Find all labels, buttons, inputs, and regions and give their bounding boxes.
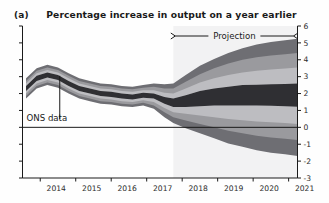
x-tick-label: 2016 [118, 184, 137, 193]
x-tick-label: 2019 [224, 184, 243, 193]
y-tick-label: 1 [304, 106, 309, 115]
x-tick-label: 2018 [189, 184, 208, 193]
x-tick-label: 2020 [259, 184, 278, 193]
y-tick-label: -1 [304, 140, 312, 149]
ons-data-label: ONS data [27, 113, 68, 123]
projection-label: Projection [213, 31, 256, 41]
fan-chart-plot: 6543210-1-2-3201420152016201720182019202… [0, 0, 329, 203]
x-tick-label: 2017 [153, 184, 172, 193]
y-tick-label: 6 [304, 22, 309, 31]
fan-chart-figure: (a) Percentage increase in output on a y… [0, 0, 329, 203]
y-tick-label: 2 [304, 89, 309, 98]
y-tick-label: -2 [304, 157, 312, 166]
y-tick-label: 4 [304, 55, 309, 64]
y-tick-label: 3 [304, 72, 309, 81]
probability-bands [26, 39, 297, 156]
x-tick-label: 2014 [47, 184, 66, 193]
y-tick-label: 0 [304, 123, 309, 132]
x-tick-label: 2021 [295, 184, 314, 193]
y-tick-label: -3 [304, 174, 312, 183]
x-tick-label: 2015 [82, 184, 101, 193]
y-tick-label: 5 [304, 39, 309, 48]
